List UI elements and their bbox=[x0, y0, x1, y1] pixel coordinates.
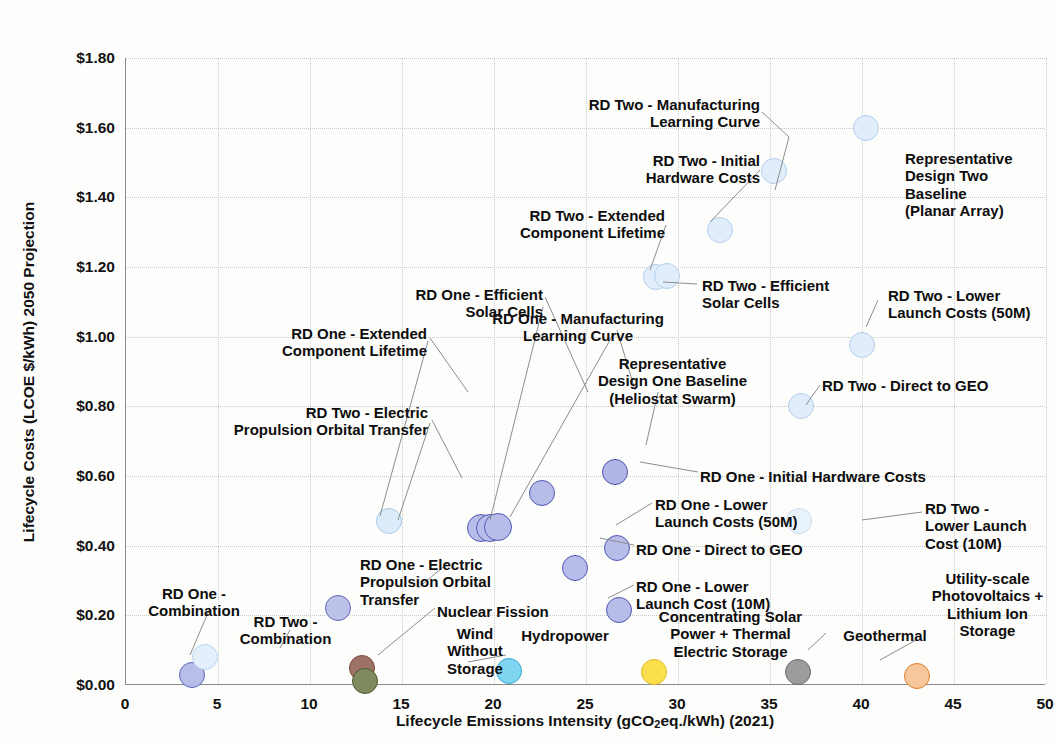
data-point[interactable] bbox=[602, 459, 628, 485]
data-point[interactable] bbox=[562, 555, 588, 581]
x-tick-label: 15 bbox=[392, 695, 409, 713]
x-tick-label: 0 bbox=[121, 695, 130, 713]
data-point[interactable] bbox=[352, 668, 378, 694]
data-point[interactable] bbox=[654, 263, 680, 289]
data-point[interactable] bbox=[606, 597, 632, 623]
y-tick-label: $1.20 bbox=[21, 258, 115, 276]
point-label: RD Two - Initial Hardware Costs bbox=[547, 152, 760, 187]
point-label: RD Two - Lower Launch Costs (50M) bbox=[888, 287, 1055, 322]
y-tick-label: $1.80 bbox=[21, 49, 115, 67]
y-tick-label: $0.60 bbox=[21, 467, 115, 485]
point-label: RD Two - Lower Launch Cost (10M) bbox=[925, 500, 1055, 552]
point-label: RD One - Direct to GEO bbox=[636, 541, 836, 558]
data-point[interactable] bbox=[376, 508, 402, 534]
data-point[interactable] bbox=[785, 659, 811, 685]
y-axis-title: Lifecycle Costs (LCOE $/kWh) 2050 Projec… bbox=[20, 52, 38, 692]
x-tick-label: 50 bbox=[1036, 695, 1053, 713]
x-tick-label: 10 bbox=[300, 695, 317, 713]
point-label: Nuclear Fission bbox=[437, 603, 597, 620]
point-label: Representative Design One Baseline (Heli… bbox=[575, 355, 770, 407]
data-point[interactable] bbox=[904, 663, 930, 689]
data-point[interactable] bbox=[853, 115, 879, 141]
data-point[interactable] bbox=[484, 513, 512, 541]
point-label: Concentrating Solar Power + Thermal Elec… bbox=[638, 608, 823, 660]
x-tick-label: 25 bbox=[576, 695, 593, 713]
data-point[interactable] bbox=[849, 332, 875, 358]
x-tick-label: 40 bbox=[852, 695, 869, 713]
point-label: RD One - Initial Hardware Costs bbox=[700, 468, 980, 485]
gridline-vertical bbox=[310, 58, 311, 684]
data-point[interactable] bbox=[788, 393, 814, 419]
point-label: Utility-scale Photovoltaics + Lithium Io… bbox=[920, 570, 1055, 640]
point-label: RD Two - Combination bbox=[228, 613, 343, 648]
point-label: RD Two - Efficient Solar Cells bbox=[702, 277, 892, 312]
point-label: RD One - Manufacturing Learning Curve bbox=[462, 310, 694, 345]
data-point[interactable] bbox=[529, 480, 555, 506]
x-tick-label: 35 bbox=[760, 695, 777, 713]
x-tick-label: 45 bbox=[944, 695, 961, 713]
y-tick-label: $1.60 bbox=[21, 119, 115, 137]
data-point[interactable] bbox=[641, 659, 667, 685]
point-label: Representative Design Two Baseline (Plan… bbox=[905, 150, 1055, 220]
point-label: RD Two - Extended Component Lifetime bbox=[440, 207, 665, 242]
point-label: RD One - Extended Component Lifetime bbox=[195, 325, 427, 360]
data-point[interactable] bbox=[761, 158, 787, 184]
x-axis-title: Lifecycle Emissions Intensity (gCO2eq./k… bbox=[125, 712, 1045, 730]
x-tick-label: 5 bbox=[213, 695, 222, 713]
gridline-vertical bbox=[862, 58, 863, 684]
data-point[interactable] bbox=[192, 644, 218, 670]
data-point[interactable] bbox=[604, 535, 630, 561]
point-label: RD Two - Manufacturing Learning Curve bbox=[550, 96, 760, 131]
point-label: Hydropower bbox=[510, 627, 620, 644]
point-label: RD One - Lower Launch Costs (50M) bbox=[655, 496, 835, 531]
y-tick-label: $0.80 bbox=[21, 397, 115, 415]
x-tick-label: 20 bbox=[484, 695, 501, 713]
y-tick-label: $0.40 bbox=[21, 537, 115, 555]
x-tick-label: 30 bbox=[668, 695, 685, 713]
y-tick-label: $1.40 bbox=[21, 188, 115, 206]
point-label: RD One - Electric Propulsion Orbital Tra… bbox=[360, 556, 540, 608]
point-label: RD Two - Direct to GEO bbox=[822, 377, 1022, 394]
y-tick-label: $1.00 bbox=[21, 328, 115, 346]
y-tick-label: $0.20 bbox=[21, 606, 115, 624]
y-tick-label: $0.00 bbox=[21, 676, 115, 694]
point-label: RD Two - Electric Propulsion Orbital Tra… bbox=[150, 404, 428, 439]
scatter-chart: Lifecycle Costs (LCOE $/kWh) 2050 Projec… bbox=[0, 0, 1055, 744]
point-label: Geothermal bbox=[830, 627, 940, 644]
data-point[interactable] bbox=[707, 217, 733, 243]
point-label: Wind Without Storage bbox=[430, 625, 520, 677]
